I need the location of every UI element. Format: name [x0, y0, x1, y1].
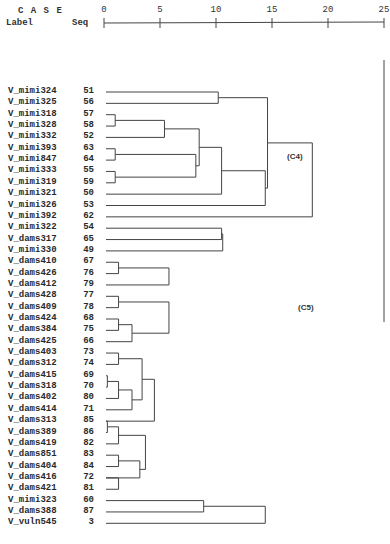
cluster-label-c4: (C4) [287, 152, 303, 161]
dendrogram-plot [0, 0, 390, 544]
cluster-label-c5: (C5) [298, 303, 314, 312]
